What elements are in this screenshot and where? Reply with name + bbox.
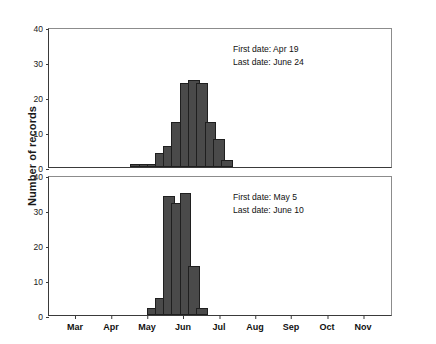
x-axis-tick-label: Nov bbox=[354, 315, 371, 332]
y-axis-tick-label: 20 bbox=[34, 94, 49, 104]
y-axis-tick-label: 20 bbox=[34, 242, 49, 252]
x-axis-tick-label: Mar bbox=[67, 315, 83, 332]
annotation-last-date-maritimes: Last date: June 24 bbox=[233, 56, 304, 69]
chart-figure: Number of records First date: Apr 19 Las… bbox=[0, 0, 436, 344]
bars-maine bbox=[49, 177, 391, 315]
annotation-first-date-maine: First date: May 5 bbox=[233, 191, 297, 204]
x-axis-tick-label: Oct bbox=[319, 315, 334, 332]
y-axis-tick-label: 40 bbox=[34, 172, 49, 182]
x-axis-tick-label: Apr bbox=[103, 315, 119, 332]
panel-maritimes: First date: Apr 19 Last date: June 24 01… bbox=[48, 28, 392, 168]
y-axis-tick-label: 0 bbox=[38, 312, 49, 322]
x-axis-tick-label: Sep bbox=[283, 315, 300, 332]
y-axis-tick-label: 30 bbox=[34, 207, 49, 217]
bar bbox=[221, 160, 233, 167]
x-axis-tick-label: Jun bbox=[175, 315, 191, 332]
x-axis-tick-label: Aug bbox=[246, 315, 264, 332]
annotation-last-date-maine: Last date: June 10 bbox=[233, 204, 304, 217]
x-axis-tick-label: Jul bbox=[212, 315, 225, 332]
plot-area-maine: First date: May 5 Last date: June 10 010… bbox=[48, 176, 392, 316]
annotation-first-date-maritimes: First date: Apr 19 bbox=[233, 43, 298, 56]
y-axis-tick-label: 10 bbox=[34, 129, 49, 139]
panel-maine: First date: May 5 Last date: June 10 010… bbox=[48, 176, 392, 316]
bars-maritimes bbox=[49, 29, 391, 167]
y-axis-tick-label: 30 bbox=[34, 59, 49, 69]
y-axis-tick-label: 40 bbox=[34, 24, 49, 34]
bar bbox=[196, 308, 208, 315]
x-axis-tick-label: May bbox=[138, 315, 156, 332]
plot-area-maritimes: First date: Apr 19 Last date: June 24 01… bbox=[48, 28, 392, 168]
y-axis-tick-label: 10 bbox=[34, 277, 49, 287]
